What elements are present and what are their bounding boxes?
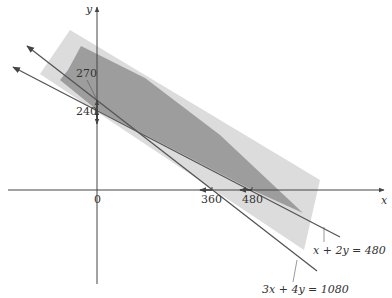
linear-inequalities-graph: y x 0 270 240 360 480 x + 2y = 480 3x + … xyxy=(0,0,392,298)
origin-label: 0 xyxy=(94,193,101,206)
equation-label-x-2y-480: x + 2y = 480 xyxy=(313,244,386,257)
line-x-2y-480 xyxy=(13,67,340,237)
x-intercept-360-label: 360 xyxy=(201,193,222,206)
y-intercept-270-label: 270 xyxy=(76,67,97,80)
equation-label-3x-4y-1080: 3x + 4y = 1080 xyxy=(262,283,349,296)
x-axis-label: x xyxy=(381,194,388,207)
label-3x4y-leader xyxy=(293,260,297,282)
y-intercept-240-label: 240 xyxy=(76,105,97,118)
y-axis-label: y xyxy=(85,3,93,16)
x-intercept-480-label: 480 xyxy=(242,193,263,206)
